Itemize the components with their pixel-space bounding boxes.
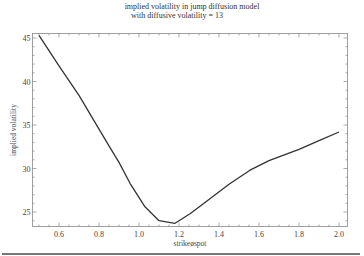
data-line [39,35,339,223]
y-tick-label: 30 [23,165,31,174]
x-tick-label: 1.0 [134,230,144,239]
x-tick-label: 1.2 [174,230,184,239]
x-tick-label: 0.6 [54,230,64,239]
plot-frame [33,34,348,227]
y-tick-label: 25 [23,208,31,217]
line-chart: 0.60.81.01.21.41.61.82.02530354045 strik… [0,0,364,256]
x-tick-label: 0.8 [94,230,104,239]
tick-labels: 0.60.81.01.21.41.61.82.02530354045 [23,34,345,239]
x-tick-label: 2.0 [334,230,344,239]
x-tick-label: 1.4 [214,230,224,239]
x-axis-title: strikeøspot [174,239,208,248]
y-axis-title: implied volatility [9,104,18,156]
y-tick-label: 35 [23,121,31,130]
x-tick-label: 1.6 [254,230,264,239]
y-tick-label: 45 [23,34,31,43]
y-tick-label: 40 [23,78,31,87]
x-tick-label: 1.8 [294,230,304,239]
bottom-divider [2,253,360,255]
axis-ticks [33,34,348,227]
